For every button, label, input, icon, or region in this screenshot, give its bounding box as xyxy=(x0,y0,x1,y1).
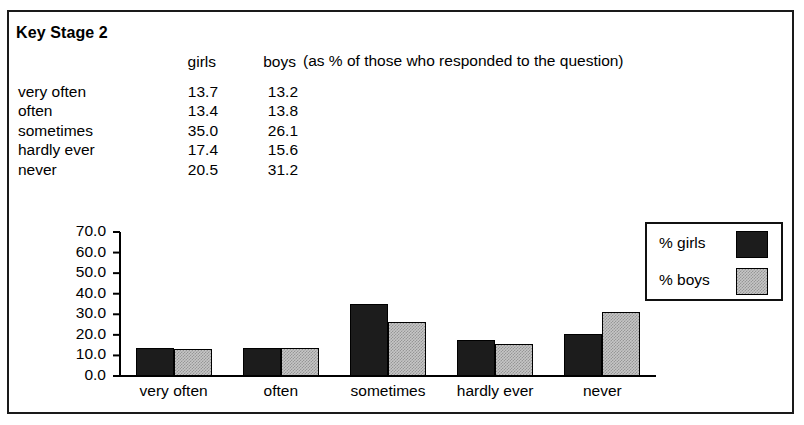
bar-girls xyxy=(243,348,281,376)
bar-boys xyxy=(388,322,426,376)
bar-boys xyxy=(602,312,640,376)
chart-legend: % girls % boys xyxy=(645,222,783,301)
legend-label: % boys xyxy=(659,271,710,289)
y-axis-tick-label: 20.0 xyxy=(48,325,106,343)
legend-swatch-girls xyxy=(736,231,768,258)
legend-swatch-boys xyxy=(736,268,768,295)
y-axis-tick-label: 60.0 xyxy=(48,243,106,261)
legend-item-girls: % girls xyxy=(647,226,781,264)
bar-girls xyxy=(564,334,602,376)
bar-girls xyxy=(350,304,388,376)
bar-boys xyxy=(174,349,212,376)
y-axis-tick-label: 40.0 xyxy=(48,284,106,302)
y-axis-tick-label: 70.0 xyxy=(48,222,106,240)
legend-label: % girls xyxy=(659,234,706,252)
legend-item-boys: % boys xyxy=(647,263,781,301)
y-axis-tick-marks xyxy=(113,232,120,376)
bar-boys xyxy=(495,344,533,376)
bar-boys xyxy=(281,348,319,376)
x-axis-tick-label: never xyxy=(522,382,682,400)
y-axis-tick-label: 10.0 xyxy=(48,345,106,363)
bar-girls xyxy=(136,348,174,376)
y-axis-tick-label: 30.0 xyxy=(48,304,106,322)
bar-girls xyxy=(457,340,495,376)
bar-chart: 0.010.020.030.040.050.060.070.0 very oft… xyxy=(0,0,804,425)
screenshot-page: Key Stage 2 girls boys very often 13.7 1… xyxy=(0,0,804,425)
y-axis-tick-label: 50.0 xyxy=(48,263,106,281)
